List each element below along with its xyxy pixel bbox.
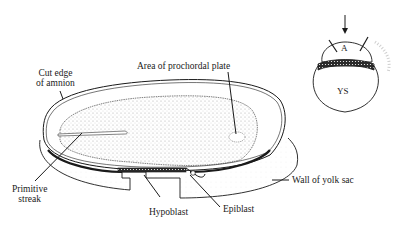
hypoblast-layer xyxy=(118,168,186,172)
embryo-diagram: Cut edge of amnion Area of prochordal pl… xyxy=(0,0,399,229)
label-wall-of-yolk-sac: Wall of yolk sac xyxy=(292,175,354,185)
label-cut-edge-line1: Cut edge xyxy=(36,68,75,78)
label-cut-edge-of-amnion: Cut edge of amnion xyxy=(36,68,75,88)
label-epiblast: Epiblast xyxy=(223,204,254,214)
arrowhead-icon xyxy=(342,28,348,34)
label-prochordal-plate: Area of prochordal plate xyxy=(137,61,230,71)
label-primitive-line2: streak xyxy=(12,194,47,204)
label-cut-edge-line2: of amnion xyxy=(36,78,75,88)
label-yolk-sac-YS: YS xyxy=(337,86,349,96)
label-amnion-A: A xyxy=(341,43,348,53)
inset-section xyxy=(313,15,389,112)
label-hypoblast: Hypoblast xyxy=(149,207,188,217)
label-primitive-streak: Primitive streak xyxy=(12,184,47,204)
label-primitive-line1: Primitive xyxy=(12,184,47,194)
leader-cut-edge xyxy=(60,91,63,99)
diagram-drawing xyxy=(0,0,399,229)
